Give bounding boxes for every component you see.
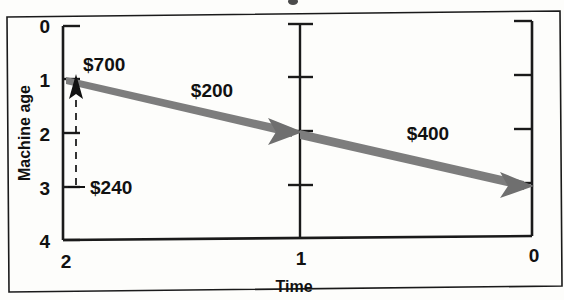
label-cost-700: $700 bbox=[83, 54, 125, 75]
x-tick-label-0: 0 bbox=[529, 245, 540, 266]
figure-panel: 0 1 2 3 4 2 1 0 $700 $240 $200 $400 Mach… bbox=[0, 0, 564, 300]
label-cost-200: $200 bbox=[191, 80, 233, 101]
paper-background bbox=[0, 0, 564, 300]
y-tick-label-4: 4 bbox=[39, 231, 50, 252]
y-tick-label-0: 0 bbox=[39, 16, 50, 37]
y-axis-title: Machine age bbox=[16, 85, 33, 181]
x-axis-title: Time bbox=[275, 278, 312, 295]
label-cost-240: $240 bbox=[90, 177, 132, 198]
x-tick-label-1: 1 bbox=[296, 248, 307, 269]
label-cost-400: $400 bbox=[407, 123, 449, 144]
x-tick-label-2: 2 bbox=[61, 251, 72, 272]
y-tick-label-3: 3 bbox=[39, 178, 50, 199]
y-tick-label-2: 2 bbox=[39, 124, 50, 145]
machine-age-time-diagram: 0 1 2 3 4 2 1 0 $700 $240 $200 $400 Mach… bbox=[0, 0, 564, 300]
y-tick-label-1: 1 bbox=[39, 70, 50, 91]
